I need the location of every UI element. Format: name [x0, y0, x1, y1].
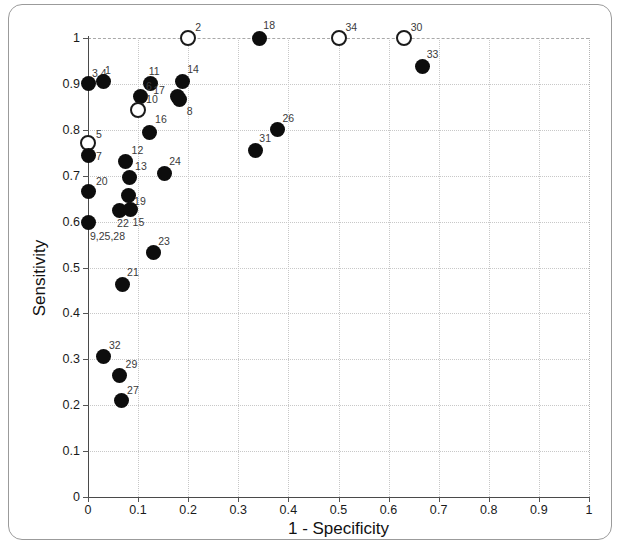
y-tick-label-0: 0	[40, 490, 80, 504]
data-point-20	[81, 184, 96, 199]
x-tick-label-0.5: 0.5	[319, 503, 359, 517]
data-point-label-30: 30	[411, 22, 423, 33]
y-axis-title: Sensitivity	[30, 168, 50, 388]
data-point-21	[115, 277, 130, 292]
x-tick-label-0.2: 0.2	[168, 503, 208, 517]
x-tick-0.5	[339, 497, 340, 502]
data-point-label-1: 1	[105, 65, 111, 76]
data-point-7	[81, 148, 96, 163]
x-tick-label-0.6: 0.6	[369, 503, 409, 517]
data-point-26	[270, 122, 285, 137]
x-tick-0.6	[389, 497, 390, 502]
data-point-label-10: 10	[146, 94, 158, 105]
data-point-label-6: 6	[146, 81, 152, 92]
data-point-2	[180, 30, 196, 46]
data-point-label-23: 23	[158, 236, 170, 247]
data-point-1	[96, 74, 111, 89]
data-point-34	[331, 30, 347, 46]
data-point-label-16: 16	[155, 114, 167, 125]
data-point-label-24: 24	[169, 156, 181, 167]
x-tick-label-0.1: 0.1	[118, 503, 158, 517]
data-point-label-7: 7	[96, 151, 102, 162]
data-point-label-2: 2	[195, 22, 201, 33]
y-tick-0	[83, 497, 89, 498]
gridline-x-1	[589, 38, 590, 497]
data-point-12	[118, 154, 133, 169]
data-point-label-33: 33	[427, 49, 439, 60]
x-tick-0.3	[238, 497, 239, 502]
x-tick-0.8	[489, 497, 490, 502]
y-tick-label-0.9: 0.9	[40, 77, 80, 91]
y-tick-label-0.1: 0.1	[40, 444, 80, 458]
data-point-29	[112, 368, 127, 383]
data-point-label-31: 31	[259, 133, 271, 144]
x-axis-title: 1 - Specificity	[88, 519, 589, 539]
plot-area: 3,4111141786101657209,25,281213192215242…	[88, 38, 589, 497]
data-point-label-13: 13	[135, 161, 147, 172]
data-point-8	[172, 92, 187, 107]
data-point-label-32: 32	[109, 340, 121, 351]
data-point-18	[252, 31, 267, 46]
data-point-label-8: 8	[187, 106, 193, 117]
x-tick-label-0.9: 0.9	[519, 503, 559, 517]
data-point-label-26: 26	[282, 113, 294, 124]
data-point-31	[248, 143, 263, 158]
data-point-10	[130, 102, 146, 118]
data-point-label-21: 21	[127, 267, 139, 278]
x-tick-label-0.8: 0.8	[469, 503, 509, 517]
data-point-label-18: 18	[263, 20, 275, 31]
data-point-label-15: 15	[133, 217, 145, 228]
x-tick-label-0.4: 0.4	[268, 503, 308, 517]
data-point-label-14: 14	[187, 64, 199, 75]
data-point-33	[415, 59, 430, 74]
data-point-label-9-25-28: 9,25,28	[90, 231, 125, 242]
x-tick-0.1	[138, 497, 139, 502]
x-tick-0.7	[439, 497, 440, 502]
x-tick-0.4	[288, 497, 289, 502]
data-point-16	[142, 125, 157, 140]
roc-scatter-figure: 00.10.20.30.40.50.60.70.80.91 00.10.20.3…	[0, 0, 621, 544]
data-point-label-27: 27	[127, 385, 139, 396]
x-tick-0.9	[539, 497, 540, 502]
data-point-24	[157, 166, 172, 181]
data-point-9-25-28	[81, 215, 96, 230]
data-point-label-5: 5	[96, 129, 102, 140]
data-point-label-34: 34	[346, 22, 358, 33]
x-tick-label-1: 1	[569, 503, 609, 517]
data-point-label-11: 11	[149, 66, 160, 77]
data-point-label-22: 22	[117, 218, 129, 229]
x-tick-label-0.7: 0.7	[419, 503, 459, 517]
x-tick-label-0.3: 0.3	[218, 503, 258, 517]
data-point-23	[146, 245, 161, 260]
x-tick-1	[589, 497, 590, 502]
data-point-30	[396, 30, 412, 46]
y-tick-label-0.8: 0.8	[40, 123, 80, 137]
data-point-label-20: 20	[96, 176, 108, 187]
x-tick-0.2	[188, 497, 189, 502]
y-tick-label-1: 1	[40, 31, 80, 45]
data-point-15	[123, 202, 138, 217]
data-point-label-12: 12	[132, 145, 144, 156]
data-point-label-29: 29	[126, 359, 138, 370]
data-point-14	[175, 74, 190, 89]
y-tick-label-0.2: 0.2	[40, 398, 80, 412]
